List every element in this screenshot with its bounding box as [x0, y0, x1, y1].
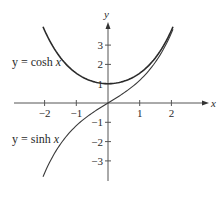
y-tick-label: −2 [91, 136, 103, 148]
x-tick-label: 2 [169, 107, 175, 119]
x-axis-arrow-icon [202, 101, 209, 106]
y-tick-label: 3 [98, 39, 104, 51]
x-axis-label: x [210, 97, 216, 109]
y-axis-label: y [103, 8, 109, 20]
x-tick-label: −2 [39, 107, 51, 119]
y-tick-label: −3 [91, 155, 103, 167]
sinh-label: y = sinh x [12, 132, 60, 146]
cosh-label: y = cosh x [12, 55, 62, 69]
y-axis-arrow-icon [106, 22, 111, 29]
y-tick-label: −1 [91, 116, 103, 128]
y-tick-label: 2 [98, 58, 104, 70]
x-tick-label: 1 [137, 107, 143, 119]
hyperbolic-functions-chart: x y −2−112 321−1−2−3 y = cosh x y = sinh… [0, 0, 223, 198]
x-tick-label: −1 [70, 107, 82, 119]
